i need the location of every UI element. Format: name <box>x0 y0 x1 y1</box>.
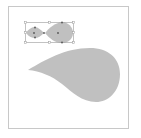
anchor-point[interactable] <box>57 32 59 34</box>
anchor-point[interactable] <box>33 32 35 34</box>
handle-top-mid[interactable] <box>49 22 51 24</box>
handle-top-right[interactable] <box>73 22 75 24</box>
handle-bottom-mid[interactable] <box>49 42 51 44</box>
handle-mid-right[interactable] <box>73 32 75 34</box>
handle-bottom-right[interactable] <box>73 42 75 44</box>
handle-bottom-left[interactable] <box>25 42 27 44</box>
anchor-point[interactable] <box>61 42 63 44</box>
anchor-point[interactable] <box>34 37 36 39</box>
artboard-canvas <box>0 0 141 138</box>
anchor-point[interactable] <box>43 32 45 34</box>
handle-mid-left[interactable] <box>25 32 27 34</box>
anchor-point[interactable] <box>61 22 63 24</box>
anchor-point[interactable] <box>34 27 36 29</box>
handle-top-left[interactable] <box>25 22 27 24</box>
